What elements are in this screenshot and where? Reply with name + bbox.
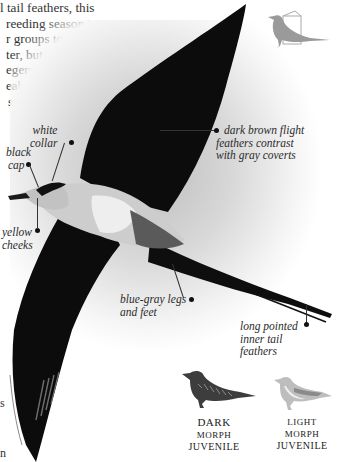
upper-wing bbox=[80, 4, 246, 212]
leader-dot bbox=[69, 140, 74, 145]
caption-line: Juvenile bbox=[270, 440, 334, 452]
label-yellow-cheeks: yellow cheeks bbox=[2, 226, 33, 251]
caption-line: Dark bbox=[184, 416, 244, 429]
bill bbox=[8, 193, 30, 200]
leader-line bbox=[306, 304, 307, 324]
caption-line: morph bbox=[270, 428, 334, 440]
label-white-collar: white collar bbox=[30, 124, 57, 149]
leader-dot bbox=[304, 322, 309, 327]
caption-line: light bbox=[270, 416, 334, 428]
text-fragment: s bbox=[0, 396, 5, 411]
light-morph-juvenile-illustration bbox=[272, 374, 334, 414]
caption-light-morph-juvenile: light morph Juvenile bbox=[270, 416, 334, 452]
caption-line: morph bbox=[184, 429, 244, 441]
leader-dot bbox=[189, 297, 194, 302]
label-flight-feathers: dark brown flight feathers contrast with… bbox=[216, 124, 304, 162]
text-fragment: n bbox=[0, 446, 6, 461]
lower-wing bbox=[13, 215, 121, 462]
seabird-silhouette-icon bbox=[266, 10, 336, 58]
label-tail: long pointed inner tail feathers bbox=[240, 320, 298, 358]
label-legs: blue-gray legs and feet bbox=[120, 293, 186, 318]
label-black-cap: black cap bbox=[6, 146, 31, 171]
leader-line bbox=[160, 130, 216, 131]
leader-line bbox=[37, 198, 38, 229]
caption-dark-morph-juvenile: Dark morph Juvenile bbox=[184, 416, 244, 453]
caption-line: Juvenile bbox=[184, 441, 244, 453]
dark-morph-juvenile-illustration bbox=[180, 368, 260, 414]
